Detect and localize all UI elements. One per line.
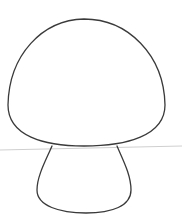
ground-line — [0, 146, 182, 150]
mushroom-stem — [37, 146, 131, 213]
mushroom-cap — [8, 19, 165, 146]
drawing-canvas — [0, 0, 182, 222]
mushroom-drawing — [0, 0, 182, 222]
